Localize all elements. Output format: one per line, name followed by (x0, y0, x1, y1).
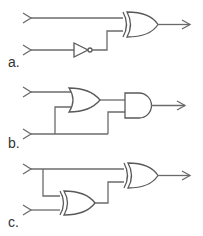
not-gate (74, 43, 88, 57)
input-arrow-icon (23, 45, 31, 55)
input-arrow-icon (23, 129, 31, 139)
xor-back-curve (124, 163, 128, 188)
wire (95, 182, 127, 203)
xor-back-curve (60, 191, 64, 215)
xor-back-curve (123, 12, 127, 37)
circuit-label-c: c. (8, 214, 19, 230)
input-arrow-icon (23, 87, 31, 97)
xor-gate-2 (128, 163, 158, 188)
circuit-c: c. (8, 163, 190, 230)
circuit-label-a: a. (8, 54, 20, 70)
circuit-label-b: b. (8, 135, 20, 151)
wire (108, 112, 125, 134)
not-bubble (88, 48, 92, 52)
xor-gate (127, 12, 158, 37)
input-arrow-icon (23, 13, 31, 23)
logic-diagram: a. b. (0, 0, 203, 236)
and-gate (125, 93, 151, 118)
input-arrow-icon (23, 205, 31, 215)
circuit-a: a. (8, 12, 190, 70)
input-arrow-icon (23, 164, 31, 174)
or-gate (69, 88, 100, 112)
xor-gate-1 (64, 191, 95, 215)
circuit-b: b. (8, 87, 185, 151)
wire (92, 31, 126, 50)
